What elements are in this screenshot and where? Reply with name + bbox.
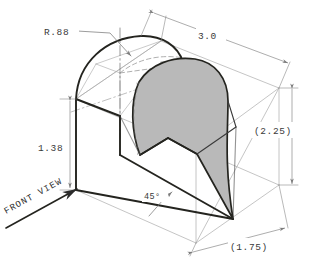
drawing-sheet: 3.0 (2.25) 1.38 xyxy=(0,0,315,275)
dimension-height-base-label: 1.38 xyxy=(38,143,63,154)
dimension-angle: 45° xyxy=(142,188,172,216)
dimension-radius-label: R.88 xyxy=(44,27,69,38)
dimension-radius: R.88 xyxy=(42,23,131,56)
dimension-angle-label: 45° xyxy=(144,192,161,202)
isometric-sketch-canvas: 3.0 (2.25) 1.38 xyxy=(0,0,315,275)
dimension-depth-label: (1.75) xyxy=(230,242,268,253)
front-view-label: FRONT VIEW xyxy=(3,176,65,216)
dimension-height-overall-label: (2.25) xyxy=(254,126,292,137)
front-view-annotation: FRONT VIEW xyxy=(3,176,77,228)
dimension-length-label: 3.0 xyxy=(198,31,217,42)
dimension-depth: (1.75) xyxy=(190,185,288,256)
dimension-height-base: 1.38 xyxy=(36,99,76,190)
